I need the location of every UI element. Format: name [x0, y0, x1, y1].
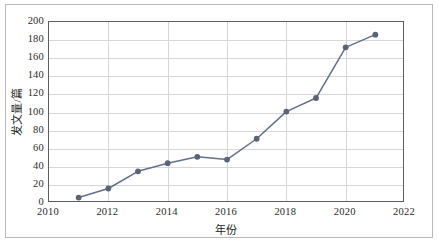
y-axis-title-wrap: 发文量/篇	[8, 21, 24, 202]
x-axis-tick-labels: 2010201220142016201820202022	[48, 206, 404, 222]
y-axis-title: 发文量/篇	[8, 88, 24, 135]
data-point-marker	[105, 186, 111, 192]
data-point-marker	[283, 109, 289, 115]
data-point-marker	[343, 44, 349, 50]
data-point-marker	[313, 95, 319, 101]
x-axis-tick-label: 2010	[18, 206, 78, 217]
series-line-path	[79, 35, 376, 198]
x-axis-tick-label: 2018	[255, 206, 315, 217]
x-axis-tick-label: 2020	[315, 206, 375, 217]
chart-figure: 020406080100120140160180200 201020122014…	[0, 0, 438, 244]
data-point-marker	[165, 160, 171, 166]
data-point-marker	[254, 136, 260, 142]
x-axis-title: 年份	[48, 221, 404, 237]
x-axis-tick-label: 2014	[137, 206, 197, 217]
data-point-marker	[372, 32, 378, 38]
plot-area	[48, 21, 404, 202]
x-axis-tick-label: 2012	[77, 206, 137, 217]
x-axis-tick-label: 2022	[374, 206, 434, 217]
series-markers	[76, 32, 378, 201]
data-point-marker	[194, 154, 200, 160]
data-point-marker	[224, 157, 230, 163]
data-point-marker	[135, 168, 141, 174]
x-axis-tick-label: 2016	[196, 206, 256, 217]
line-series	[49, 22, 404, 202]
data-point-marker	[76, 195, 82, 201]
